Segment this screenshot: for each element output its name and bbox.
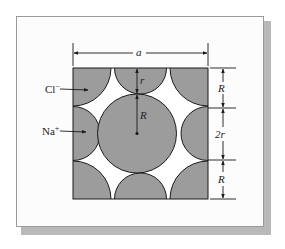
nacl-diagram: r R a R 2r R Cl− Na+ (0, 0, 285, 249)
R-top-label: R (217, 82, 225, 94)
na-label: Na+ (42, 124, 60, 137)
R-label: R (139, 109, 147, 121)
2r-label: 2r (215, 128, 226, 140)
cl-label: Cl− (45, 82, 60, 95)
center-dot (135, 132, 138, 135)
r-label: r (140, 74, 145, 86)
R-bottom-label: R (217, 173, 225, 185)
a-label: a (136, 46, 142, 58)
